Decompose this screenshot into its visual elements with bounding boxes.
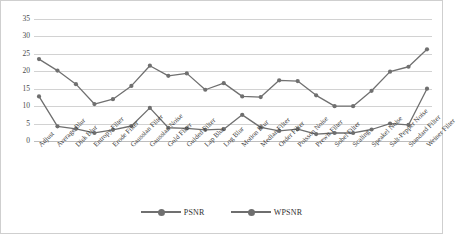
y-axis-tick-labels: 05101520253035: [0, 19, 30, 141]
series-psnr: [37, 47, 429, 108]
data-point: [351, 104, 355, 108]
data-point: [74, 82, 78, 86]
series-layer: [34, 19, 432, 141]
data-point: [222, 81, 226, 85]
data-point: [296, 79, 300, 83]
y-tick-15: 15: [2, 85, 30, 93]
data-point: [37, 57, 41, 61]
data-point: [277, 78, 281, 82]
data-point: [92, 102, 96, 106]
legend-line-icon: [141, 211, 181, 213]
data-point: [166, 74, 170, 78]
data-point: [185, 71, 189, 75]
data-point: [148, 64, 152, 68]
y-tick-25: 25: [2, 50, 30, 58]
series-line-psnr: [39, 49, 427, 106]
data-point: [240, 113, 244, 117]
y-tick-0: 0: [2, 137, 30, 145]
legend-label: PSNR: [184, 208, 205, 217]
plot-area: [34, 19, 432, 141]
y-tick-10: 10: [2, 102, 30, 110]
y-tick-30: 30: [2, 32, 30, 40]
y-tick-20: 20: [2, 67, 30, 75]
data-point: [425, 87, 429, 91]
data-point: [388, 70, 392, 74]
y-tick-35: 35: [2, 15, 30, 23]
data-point: [148, 106, 152, 110]
legend-line-icon: [231, 211, 271, 213]
legend-marker-icon: [158, 209, 165, 216]
legend-label: WPSNR: [274, 208, 303, 217]
data-point: [259, 95, 263, 99]
data-point: [203, 88, 207, 92]
data-point: [333, 104, 337, 108]
data-point: [314, 93, 318, 97]
legend-item-psnr[interactable]: PSNR: [141, 208, 205, 217]
data-point: [406, 65, 410, 69]
data-point: [240, 94, 244, 98]
data-point: [55, 124, 59, 128]
data-point: [369, 89, 373, 93]
data-point: [425, 47, 429, 51]
legend-marker-icon: [248, 209, 255, 216]
data-point: [37, 94, 41, 98]
legend-item-wpsnr[interactable]: WPSNR: [231, 208, 303, 217]
data-point: [369, 127, 373, 131]
data-point: [111, 97, 115, 101]
chart-legend: PSNRWPSNR: [0, 205, 443, 219]
data-point: [129, 84, 133, 88]
x-axis-tick-labels: AdjustAverage BlurDisk BlurEntropy Filte…: [34, 143, 432, 195]
chart-title: [22, 0, 222, 7]
y-tick-5: 5: [2, 120, 30, 128]
data-point: [55, 68, 59, 72]
